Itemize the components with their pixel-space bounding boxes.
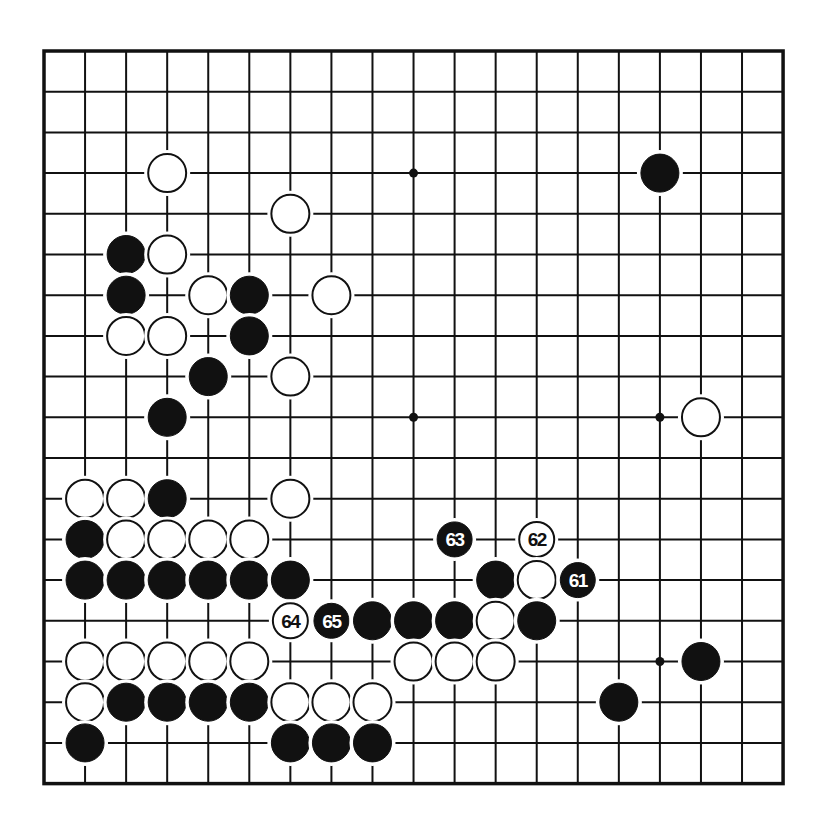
white-stone-icon bbox=[107, 480, 145, 518]
black-stone-icon bbox=[189, 358, 227, 396]
white-stone bbox=[391, 639, 437, 685]
white-stone-icon bbox=[148, 643, 186, 681]
black-stone bbox=[267, 720, 313, 766]
black-stone-icon bbox=[682, 643, 720, 681]
white-stone bbox=[308, 272, 354, 318]
black-stone-icon bbox=[107, 561, 145, 599]
black-stone-icon bbox=[271, 724, 309, 762]
black-stone-icon bbox=[477, 561, 515, 599]
star-point-icon bbox=[409, 413, 418, 422]
white-stone bbox=[103, 476, 149, 522]
white-stone-icon bbox=[107, 643, 145, 681]
black-stone bbox=[103, 679, 149, 725]
white-stone bbox=[267, 679, 313, 725]
white-stone bbox=[144, 516, 190, 562]
black-stone bbox=[391, 598, 437, 644]
black-stone bbox=[226, 679, 272, 725]
black-stone-icon bbox=[230, 317, 268, 355]
black-stone bbox=[62, 720, 108, 766]
white-stone-icon bbox=[148, 154, 186, 192]
white-stone bbox=[267, 191, 313, 237]
white-stone-icon bbox=[271, 358, 309, 396]
black-stone-icon bbox=[395, 602, 433, 640]
white-stone-icon bbox=[107, 317, 145, 355]
white-stone-move-64: 64 bbox=[269, 599, 312, 642]
white-stone-icon bbox=[66, 643, 104, 681]
black-stone-icon bbox=[107, 276, 145, 314]
star-point-icon bbox=[655, 413, 664, 422]
black-stone-move-63: 63 bbox=[433, 518, 476, 561]
black-stone-icon bbox=[189, 561, 227, 599]
black-stone-icon bbox=[66, 520, 104, 558]
white-stone bbox=[432, 639, 478, 685]
star-point-icon bbox=[655, 657, 664, 666]
black-stone bbox=[308, 720, 354, 766]
black-stone bbox=[185, 557, 231, 603]
white-stone-icon bbox=[107, 520, 145, 558]
black-stone-icon bbox=[641, 154, 679, 192]
black-stone bbox=[144, 679, 190, 725]
black-stone-icon bbox=[148, 561, 186, 599]
black-stone-icon bbox=[66, 724, 104, 762]
go-board[interactable]: 6362616465 bbox=[0, 0, 834, 826]
black-stone-icon bbox=[518, 602, 556, 640]
white-stone bbox=[103, 639, 149, 685]
white-stone bbox=[185, 639, 231, 685]
black-stone bbox=[62, 557, 108, 603]
white-stone-icon bbox=[271, 683, 309, 721]
white-stone bbox=[62, 679, 108, 725]
white-stone bbox=[473, 598, 519, 644]
white-stone-move-62: 62 bbox=[515, 518, 558, 561]
black-stone bbox=[432, 598, 478, 644]
white-stone bbox=[185, 516, 231, 562]
black-stone-icon bbox=[353, 724, 391, 762]
black-stone-icon bbox=[353, 602, 391, 640]
black-stone bbox=[349, 720, 395, 766]
white-stone-icon bbox=[477, 602, 515, 640]
black-stone bbox=[103, 232, 149, 278]
black-stone bbox=[144, 476, 190, 522]
black-stone bbox=[349, 598, 395, 644]
white-stone bbox=[144, 150, 190, 196]
white-stone-icon bbox=[189, 643, 227, 681]
white-stone bbox=[267, 354, 313, 400]
white-stone-icon bbox=[353, 683, 391, 721]
white-stone-icon bbox=[148, 236, 186, 274]
black-stone-icon bbox=[148, 683, 186, 721]
white-stone-icon bbox=[312, 276, 350, 314]
white-stone bbox=[62, 476, 108, 522]
black-stone-move-65: 65 bbox=[310, 599, 353, 642]
white-stone bbox=[144, 232, 190, 278]
white-stone bbox=[62, 639, 108, 685]
black-stone-icon bbox=[271, 561, 309, 599]
white-stone-icon bbox=[395, 643, 433, 681]
white-stone bbox=[267, 476, 313, 522]
black-stone-icon bbox=[436, 602, 474, 640]
white-stone bbox=[349, 679, 395, 725]
white-stone bbox=[103, 516, 149, 562]
move-number-label: 63 bbox=[446, 529, 465, 550]
move-number-label: 64 bbox=[281, 611, 301, 632]
move-number-label: 62 bbox=[528, 529, 547, 550]
white-stone-icon bbox=[436, 643, 474, 681]
black-stone bbox=[226, 313, 272, 359]
star-point-icon bbox=[409, 169, 418, 178]
black-stone bbox=[473, 557, 519, 603]
black-stone bbox=[596, 679, 642, 725]
white-stone bbox=[185, 272, 231, 318]
white-stone-icon bbox=[189, 520, 227, 558]
black-stone bbox=[267, 557, 313, 603]
black-stone-icon bbox=[107, 236, 145, 274]
black-stone bbox=[144, 394, 190, 440]
black-stone bbox=[62, 516, 108, 562]
white-stone-icon bbox=[477, 643, 515, 681]
white-stone bbox=[144, 313, 190, 359]
move-number-label: 61 bbox=[569, 570, 589, 591]
black-stone bbox=[103, 272, 149, 318]
white-stone-icon bbox=[682, 398, 720, 436]
black-stone-icon bbox=[189, 683, 227, 721]
black-stone-move-61: 61 bbox=[556, 559, 599, 602]
black-stone-icon bbox=[312, 724, 350, 762]
black-stone bbox=[637, 150, 683, 196]
white-stone-icon bbox=[518, 561, 556, 599]
